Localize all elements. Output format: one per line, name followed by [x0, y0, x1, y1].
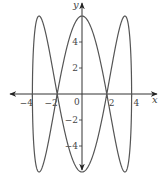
y-tick-label: 4 — [72, 37, 78, 47]
parametric-plot: −4−22442−2−4 x y 0 — [0, 0, 161, 175]
x-axis-label: x — [152, 94, 158, 105]
y-tick-label: 2 — [72, 63, 78, 73]
x-tick-label: −4 — [20, 98, 34, 108]
y-tick-label: −2 — [65, 115, 78, 125]
x-tick-label: 4 — [134, 98, 140, 108]
origin-label: 0 — [74, 97, 80, 107]
y-axis-label: y — [72, 0, 79, 10]
